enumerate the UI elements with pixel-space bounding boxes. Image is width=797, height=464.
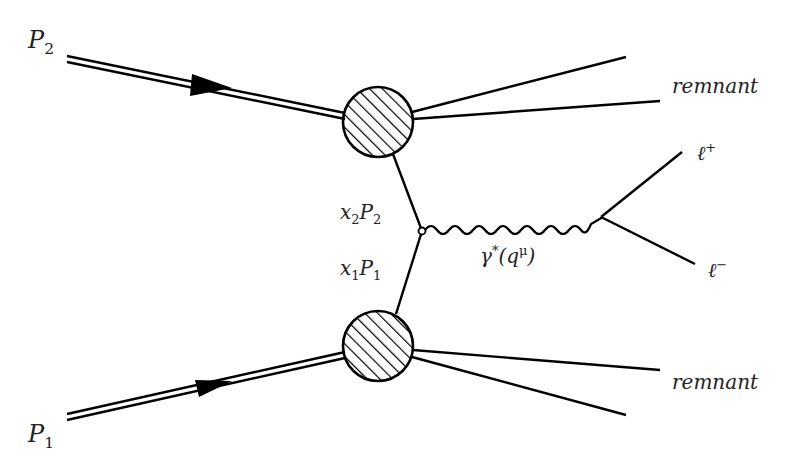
label-x1p1: x1P1 <box>340 258 381 282</box>
parton-line-x1p1 <box>396 231 422 314</box>
feynman-diagram <box>0 0 797 464</box>
incoming-proton-p1-line <box>67 352 345 420</box>
label-lepton-plus: ℓ+ <box>697 141 716 163</box>
label-x2p2: x2P2 <box>340 202 381 226</box>
label-p1: P1 <box>28 422 54 451</box>
virtual-photon-wavy-line <box>425 217 603 234</box>
lepton-plus-line <box>601 152 682 217</box>
remnant-lines-bottom <box>412 350 660 415</box>
label-p2: P2 <box>28 28 54 57</box>
remnant-lines-top <box>412 57 660 119</box>
label-remnant-bottom: remnant <box>672 372 758 392</box>
incoming-proton-p2-line <box>67 56 345 119</box>
label-virtual-photon: γ*(qμ) <box>480 244 535 266</box>
lepton-minus-line <box>601 217 695 264</box>
label-lepton-minus: ℓ− <box>708 258 727 280</box>
hadron-blob-top <box>343 87 413 157</box>
hadron-blob-bottom <box>343 311 413 381</box>
label-remnant-top: remnant <box>672 76 758 96</box>
arrow-icon <box>195 380 232 397</box>
parton-line-x2p2 <box>393 154 422 231</box>
annihilation-vertex <box>419 228 426 235</box>
